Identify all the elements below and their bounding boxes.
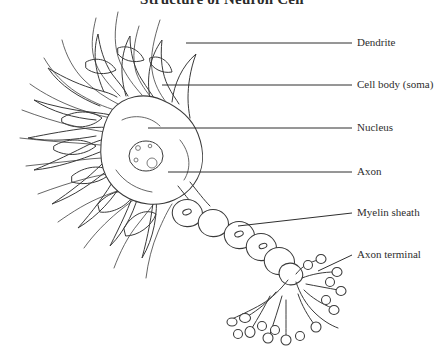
label-axon-terminal: Axon terminal [357,249,421,260]
myelin-sheath [172,200,303,285]
label-nucleus: Nucleus [357,122,393,133]
label-dendrite: Dendrite [357,37,395,48]
label-cell-body-soma: Cell body (soma) [357,79,433,90]
label-myelin-sheath: Myelin sheath [357,207,420,218]
nucleus [129,141,163,171]
neuron-illustration [0,0,444,358]
label-axon: Axon [357,166,381,177]
leader-line-myelin-sheath [238,213,352,226]
diagram-canvas: Structure of Neuron Cell [0,0,444,358]
